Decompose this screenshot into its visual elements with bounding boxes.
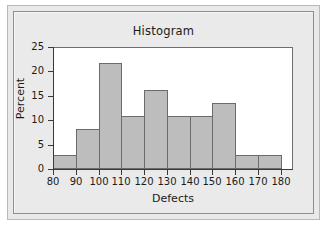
- y-axis-tick: [48, 96, 53, 97]
- y-axis-tick: [48, 120, 53, 121]
- histogram-bar: [258, 155, 282, 169]
- x-axis-tick-label: 180: [266, 176, 296, 187]
- histogram-bar: [121, 116, 145, 169]
- x-axis-tick: [258, 170, 259, 175]
- y-axis-tick-label: 0: [18, 163, 44, 174]
- y-axis-tick-label: 5: [18, 139, 44, 150]
- histogram-bar: [53, 155, 77, 169]
- x-axis-tick: [53, 170, 54, 175]
- x-axis-tick: [144, 170, 145, 175]
- histogram-bar: [76, 129, 100, 169]
- y-axis-tick-label: 25: [18, 41, 44, 52]
- x-axis-tick: [281, 170, 282, 175]
- histogram-bar: [190, 116, 214, 169]
- histogram-bar: [144, 90, 168, 169]
- y-axis-line: [53, 47, 54, 170]
- x-axis-tick: [235, 170, 236, 175]
- histogram-bar: [167, 116, 191, 169]
- x-axis-tick: [76, 170, 77, 175]
- histogram-bar: [235, 155, 259, 169]
- y-axis-title: Percent: [14, 69, 27, 129]
- x-axis-tick: [212, 170, 213, 175]
- page-title: Histogram: [13, 24, 314, 38]
- histogram-bar: [99, 63, 123, 169]
- y-axis-tick: [48, 71, 53, 72]
- plot-right-border: [292, 47, 293, 170]
- x-axis-title: Defects: [53, 192, 293, 205]
- bars-layer: [53, 47, 292, 169]
- plot-top-border: [53, 47, 293, 48]
- x-axis-line: [53, 169, 293, 170]
- histogram-figure: Histogram 0510152025 8090100110120130140…: [0, 0, 327, 232]
- y-axis-tick: [48, 47, 53, 48]
- x-axis-tick: [99, 170, 100, 175]
- x-axis-tick: [190, 170, 191, 175]
- plot-area: [53, 47, 292, 169]
- x-axis-tick: [167, 170, 168, 175]
- x-axis-tick: [121, 170, 122, 175]
- y-axis-tick: [48, 145, 53, 146]
- histogram-bar: [212, 103, 236, 169]
